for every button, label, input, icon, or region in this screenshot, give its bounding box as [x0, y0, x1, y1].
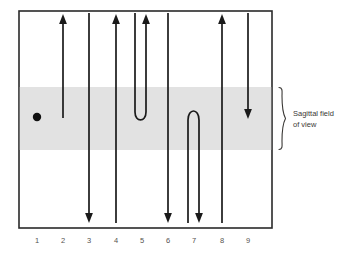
- figure-root: 1 2 3 4 5 6 7 8 9 Sagittal field of view: [0, 0, 361, 255]
- trajectory-1-point: [33, 113, 41, 121]
- axis-number-4: 4: [114, 236, 118, 245]
- brace-icon: [279, 88, 286, 150]
- axis-number-3: 3: [87, 236, 91, 245]
- axis-number-9: 9: [246, 236, 250, 245]
- sagittal-band-brace: [279, 88, 286, 150]
- axis-number-7: 7: [192, 236, 196, 245]
- sagittal-band-label-line2: of view: [293, 120, 317, 129]
- diagram-canvas: 1 2 3 4 5 6 7 8 9 Sagittal field of view: [0, 0, 361, 255]
- point-marker-dot: [33, 113, 41, 121]
- axis-number-8: 8: [220, 236, 224, 245]
- sagittal-band-label-line1: Sagittal field: [293, 109, 334, 118]
- axis-number-5: 5: [140, 236, 144, 245]
- axis-number-1: 1: [35, 236, 39, 245]
- axis-number-6: 6: [166, 236, 170, 245]
- axis-number-2: 2: [61, 236, 65, 245]
